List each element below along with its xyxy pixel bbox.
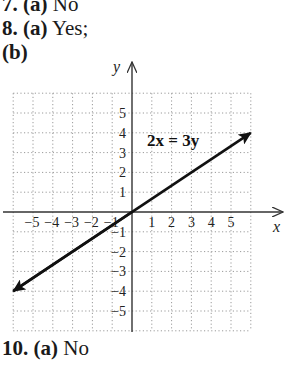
y-tick-label: −5 (111, 304, 126, 319)
part-label: (a) (34, 336, 59, 360)
x-tick-label: −5 (25, 215, 40, 230)
x-tick-label: 2 (168, 215, 175, 230)
y-tick-label: −1 (111, 225, 126, 240)
x-axis-label: x (272, 218, 280, 235)
x-tick-label: 5 (228, 215, 235, 230)
y-tick-label: −4 (111, 284, 126, 299)
x-tick-label: −2 (84, 215, 99, 230)
y-tick-label: 2 (119, 165, 126, 180)
y-tick-label: −3 (111, 264, 126, 279)
x-tick-label: 4 (208, 215, 215, 230)
y-tick-label: 1 (119, 185, 126, 200)
x-tick-label: −3 (64, 215, 79, 230)
answer-text: No (63, 336, 89, 360)
coordinate-graph: −5−4−3−2−11234554321−1−2−3−4−5 2x = 3y x… (0, 0, 286, 365)
y-tick-label: 5 (119, 106, 126, 121)
x-tick-label: 1 (148, 215, 155, 230)
equation-label: 2x = 3y (147, 131, 200, 150)
y-tick-label: −2 (111, 245, 126, 260)
y-tick-label: 3 (119, 146, 126, 161)
x-tick-label: −4 (44, 215, 59, 230)
answer-10: 10. (a) No (2, 337, 89, 359)
x-tick-label: 3 (188, 215, 195, 230)
y-tick-label: 4 (119, 126, 126, 141)
question-number: 10. (2, 336, 28, 360)
y-axis-label: y (111, 58, 121, 76)
